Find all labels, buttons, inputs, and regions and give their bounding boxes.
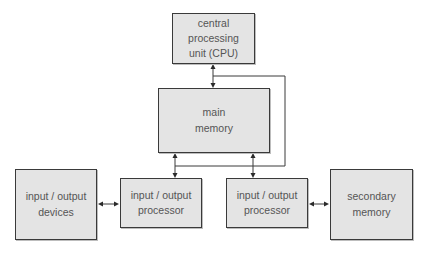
arrowhead-right — [114, 202, 119, 207]
main-memory-label: main memory — [195, 105, 233, 135]
arrowhead-up — [251, 153, 256, 158]
io-processor-2-label: input / output processor — [237, 188, 298, 218]
arrowhead-up — [173, 153, 178, 158]
arrowhead-left — [98, 202, 103, 207]
diagram-canvas: central processing unit (CPU) main memor… — [0, 0, 431, 259]
secondary-memory-box: secondary memory — [330, 169, 413, 240]
io-processor-1-label: input / output processor — [131, 188, 192, 218]
cpu-box: central processing unit (CPU) — [172, 13, 255, 64]
io-processor-1-box: input / output processor — [120, 178, 202, 228]
io-devices-box: input / output devices — [15, 169, 97, 240]
main-memory-box: main memory — [158, 88, 270, 153]
arrowhead-up — [211, 64, 216, 69]
io-devices-label: input / output devices — [26, 189, 87, 219]
io-processor-2-box: input / output processor — [226, 178, 308, 228]
cpu-label: central processing unit (CPU) — [188, 16, 239, 62]
arrowhead-right — [324, 202, 329, 207]
secondary-memory-label: secondary memory — [347, 189, 395, 219]
arrowhead-left — [309, 202, 314, 207]
